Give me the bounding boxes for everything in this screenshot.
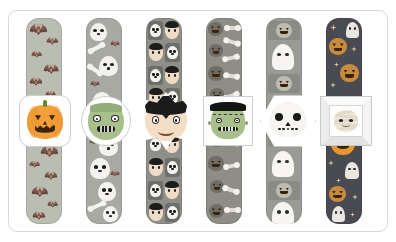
medallion-frankenstein[interactable] xyxy=(203,96,253,146)
pumpkin-face-icon xyxy=(27,105,63,139)
frankenstein-face-icon xyxy=(211,105,246,140)
screenshot-canvas: 🦇 🦇 🦇 🦇 🦇 🦇 🦇 🦇 🦇 🦇 🦇 🦇 🦇 🦇 🦇 xyxy=(0,0,396,242)
medallion-vampire[interactable] xyxy=(138,92,194,148)
zombie-face-icon xyxy=(88,103,124,140)
medallion-zombie[interactable] xyxy=(81,96,131,146)
medallion-pumpkin[interactable] xyxy=(19,95,71,147)
medallion-inner-panel xyxy=(329,105,363,137)
mummy-face-icon xyxy=(334,110,358,132)
skull-face-icon xyxy=(269,102,307,136)
medallion-mummy[interactable] xyxy=(320,96,372,146)
vampire-face-icon xyxy=(145,100,186,141)
